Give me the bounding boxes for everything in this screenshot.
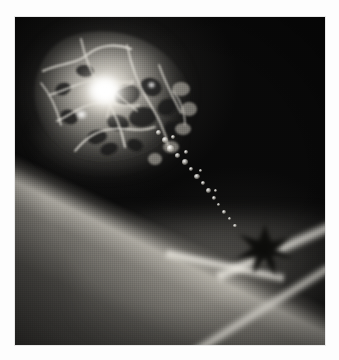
fragment-knot — [214, 189, 217, 192]
astronomical-image-plate — [15, 17, 325, 345]
nucleus-core — [87, 75, 121, 105]
fragment-knot — [182, 159, 188, 165]
fragment-knot — [194, 174, 200, 179]
fragment-knot — [206, 188, 211, 193]
fragment-knot — [189, 167, 193, 171]
spark-secondary — [75, 109, 88, 120]
fragment-knot — [162, 137, 168, 143]
fragment-knot — [233, 224, 237, 227]
spark-tertiary — [147, 81, 156, 89]
fragment-knot — [217, 203, 220, 206]
fragment-knot — [167, 145, 174, 152]
fragment-knot — [201, 181, 205, 185]
fragment-knot — [184, 150, 188, 154]
fragment-knot — [228, 217, 231, 220]
fragment-knot — [156, 130, 161, 135]
figure-frame: Grainy monochrome astronomical illustrat… — [0, 0, 339, 360]
fragment-knot — [199, 169, 202, 172]
fragment-knot — [222, 210, 226, 214]
fragment-knot — [171, 135, 175, 139]
fragment-knot — [175, 153, 180, 158]
fragment-knot — [212, 196, 216, 200]
